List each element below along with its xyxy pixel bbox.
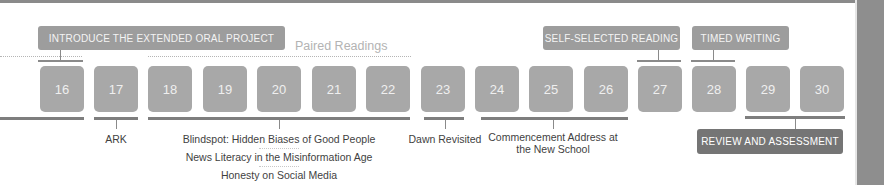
timed-writing-bracket xyxy=(691,60,735,62)
day-tile-26: 26 xyxy=(584,66,628,112)
day-tile-17: 17 xyxy=(94,66,138,112)
day-tile-19: 19 xyxy=(203,66,247,112)
bracket-day-16 xyxy=(0,117,84,120)
dawn-connector xyxy=(445,120,446,129)
dotted-rule-left xyxy=(0,56,82,57)
right-sidebar xyxy=(857,0,884,185)
honesty-caption: Honesty on Social Media xyxy=(179,169,379,181)
bracket-commencement xyxy=(481,117,628,120)
review-connector xyxy=(795,119,796,129)
day-tile-16: 16 xyxy=(40,66,84,112)
ark-connector xyxy=(116,120,117,129)
self-selected-reading-label: SELF-SELECTED READING xyxy=(543,26,680,50)
day-tile-27: 27 xyxy=(638,66,682,112)
day-tile-30: 30 xyxy=(800,66,844,112)
self-selected-connector xyxy=(658,50,659,60)
timed-writing-label: TIMED WRITING xyxy=(692,26,789,50)
dawn-revisited-caption: Dawn Revisited xyxy=(405,133,485,145)
caption-separator-1 xyxy=(259,148,299,149)
day-tile-18: 18 xyxy=(148,66,192,112)
blindspot-caption: Blindspot: Hidden Biases of Good People xyxy=(179,133,379,145)
commencement-connector xyxy=(553,120,554,129)
day-tile-25: 25 xyxy=(529,66,573,112)
introduce-oral-project-label: INTRODUCE THE EXTENDED ORAL PROJECT xyxy=(38,26,285,50)
commencement-caption-line1: Commencement Address at xyxy=(488,131,618,143)
caption-separator-2 xyxy=(259,166,299,167)
day-tile-28: 28 xyxy=(692,66,736,112)
ark-caption: ARK xyxy=(96,133,136,145)
self-selected-bracket xyxy=(637,60,681,62)
day-tile-23: 23 xyxy=(421,66,465,112)
day-tile-29: 29 xyxy=(746,66,790,112)
day-tile-21: 21 xyxy=(312,66,356,112)
paired-readings-title: Paired Readings xyxy=(295,39,387,53)
day-tile-24: 24 xyxy=(475,66,519,112)
day-tile-22: 22 xyxy=(366,66,410,112)
introduce-bracket xyxy=(38,60,83,62)
review-and-assessment-label: REVIEW AND ASSESSMENT xyxy=(697,129,843,154)
introduce-connector xyxy=(60,50,61,60)
timed-writing-connector xyxy=(713,50,714,60)
day-tile-20: 20 xyxy=(257,66,301,112)
top-border xyxy=(0,0,860,3)
bracket-dawn xyxy=(424,117,464,120)
paired-readings-connector xyxy=(279,120,280,129)
dotted-rule-paired xyxy=(148,56,411,57)
commencement-caption-line2: the New School xyxy=(488,143,618,155)
news-literacy-caption: News Literacy in the Misinformation Age xyxy=(179,151,379,163)
